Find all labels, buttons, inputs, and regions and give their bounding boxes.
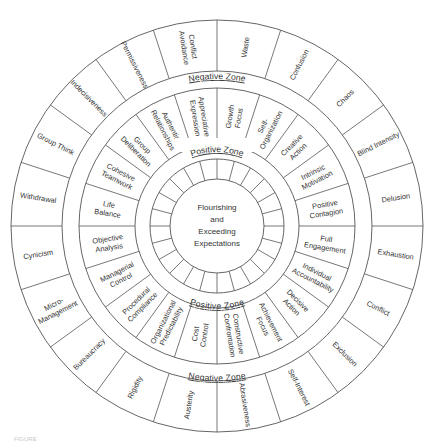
inner-segment-divider — [159, 193, 176, 203]
positive-ring-label: OrganizationalPredictability — [148, 298, 186, 349]
negative-ring-label: Waste — [239, 36, 251, 58]
inner-segment-divider — [229, 271, 234, 290]
negative-ring-label-line: Group Think — [36, 131, 76, 158]
inner-segment-divider — [250, 259, 264, 273]
negative-ring-label: ConflictAvoidance — [177, 29, 200, 66]
negative-ring-label: Indecisiveness — [69, 78, 110, 119]
positive-ring-label: DecisiveAction — [278, 288, 310, 320]
inner-segment-divider — [184, 168, 194, 185]
negative-ring-divider — [50, 317, 91, 347]
positive-ring-label-line: Engagement — [304, 240, 347, 255]
center-label-line-4: Expectations — [194, 239, 240, 248]
positive-ring-label: CreativeAction — [279, 132, 311, 164]
negative-ring-label-line: Cynicism — [23, 248, 54, 262]
negative-ring-label: Exhaustion — [377, 247, 415, 262]
inner-segment-divider — [170, 259, 184, 273]
inner-segment-divider — [241, 168, 251, 185]
positive-zone-label-bottom: Positive Zone — [189, 297, 246, 311]
negative-ring-label: Austerity — [182, 390, 195, 420]
negative-ring-divider — [153, 30, 169, 79]
negative-ring-divider — [342, 317, 383, 347]
negative-ring-divider — [96, 59, 126, 100]
negative-ring-label-line: Conflict — [365, 299, 391, 318]
negative-ring-label: Confusion — [288, 48, 311, 82]
positive-ring-label: AppreciativeExpression — [188, 96, 212, 139]
negative-ring-label: Conflict — [365, 299, 391, 318]
negative-ring-divider — [21, 274, 70, 290]
negative-ring-divider — [308, 351, 338, 392]
negative-ring-label-line: Waste — [239, 36, 251, 58]
negative-ring-label: Micro-Management — [32, 290, 79, 326]
negative-ring-divider — [153, 373, 169, 422]
negative-ring-label: Rigidity — [125, 374, 144, 400]
positive-ring-label-line: Control — [198, 323, 211, 348]
negative-ring-label: Abrasiveness — [237, 382, 253, 428]
negative-zone-label-bottom: Negative Zone — [188, 370, 247, 383]
negative-ring-label-line: Withdrawal — [19, 190, 57, 205]
negative-ring-divider — [308, 59, 338, 100]
negative-ring-label-line: Confusion — [288, 48, 311, 82]
negative-ring-divider — [96, 351, 126, 392]
negative-ring-divider — [364, 162, 413, 178]
positive-ring-label: PositiveContagion — [308, 197, 344, 220]
negative-ring-label: Self-Interest — [286, 368, 312, 408]
positive-ring-label: ProceduralCompliance — [119, 284, 159, 324]
inner-segment-divider — [250, 179, 264, 193]
negative-ring-label-line: Self-Interest — [286, 368, 312, 408]
negative-ring-label-line: Bureaucracy — [71, 336, 107, 372]
center-label-line-3: Exceeding — [198, 227, 235, 236]
negative-ring-divider — [21, 162, 70, 178]
inner-segment-divider — [262, 238, 281, 243]
positive-ring-label: GrowthFocus — [224, 104, 246, 130]
negative-ring-label-line: Delusion — [381, 191, 411, 204]
positive-ring-label: GroupDeliberation — [119, 128, 160, 169]
inner-segment-divider — [152, 238, 171, 243]
flourishing-wheel-diagram: WasteConfusionChaosBlind IntensityDelusi… — [0, 0, 433, 448]
negative-ring-label: Exclusion — [331, 340, 360, 369]
negative-zone-label-top: Negative Zone — [188, 71, 247, 84]
center-label: Flourishing and Exceeding Expectations — [194, 203, 240, 248]
negative-ring-label: Group Think — [36, 131, 76, 158]
inner-segment-divider — [229, 161, 234, 180]
negative-ring-label-line: Abrasiveness — [237, 382, 253, 428]
positive-ring-label: FullEngagement — [304, 231, 348, 255]
negative-ring-label: Chaos — [334, 87, 356, 109]
negative-ring-label: Delusion — [381, 191, 411, 204]
inner-segment-divider — [152, 209, 171, 214]
negative-ring-label-line: Austerity — [182, 390, 195, 420]
positive-ring-label: CohesiveTeamwork — [100, 160, 138, 191]
negative-ring-label-line: Indecisiveness — [69, 78, 110, 119]
inner-segment-divider — [262, 209, 281, 214]
inner-segment-divider — [258, 193, 275, 203]
negative-ring-divider — [342, 105, 383, 135]
positive-ring-label: ObjectiveAnalysis — [92, 232, 125, 255]
inner-segment-divider — [200, 271, 205, 290]
positive-ring-label-line: Focus — [233, 107, 245, 129]
negative-ring-label-line: Exclusion — [331, 340, 360, 369]
negative-ring-label-line: Rigidity — [125, 374, 144, 400]
positive-ring-label-line: Balance — [94, 207, 122, 220]
negative-ring-label: Bureaucracy — [71, 336, 107, 372]
positive-ring-label: LifeBalance — [94, 198, 123, 220]
negative-ring-label-line: Exhaustion — [377, 247, 415, 262]
negative-ring-label: Blind Intensity — [356, 129, 401, 158]
center-label-line-2: and — [210, 215, 223, 224]
positive-ring-label: CostControl — [189, 321, 211, 348]
inner-segment-divider — [200, 161, 205, 180]
negative-ring-label-line: Chaos — [334, 87, 356, 109]
negative-ring-label: Cynicism — [23, 248, 54, 262]
center-label-line-1: Flourishing — [197, 203, 236, 212]
negative-ring-label: Withdrawal — [19, 190, 57, 205]
positive-ring-dividers — [79, 88, 355, 364]
inner-segment-divider — [159, 250, 176, 260]
negative-ring-divider — [265, 373, 281, 422]
negative-ring-label: Permissiveness — [119, 40, 151, 90]
negative-ring-divider — [265, 30, 281, 79]
inner-segment-divider — [258, 250, 275, 260]
negative-ring-label-line: Blind Intensity — [356, 129, 401, 158]
positive-ring-label: ManagerialControl — [99, 260, 140, 293]
inner-segment-divider — [170, 179, 184, 193]
positive-ring-label: ConstructiveConfrontation — [222, 311, 247, 358]
figure-caption: FIGURE — [14, 436, 37, 442]
negative-ring-label-line: Permissiveness — [119, 40, 151, 90]
